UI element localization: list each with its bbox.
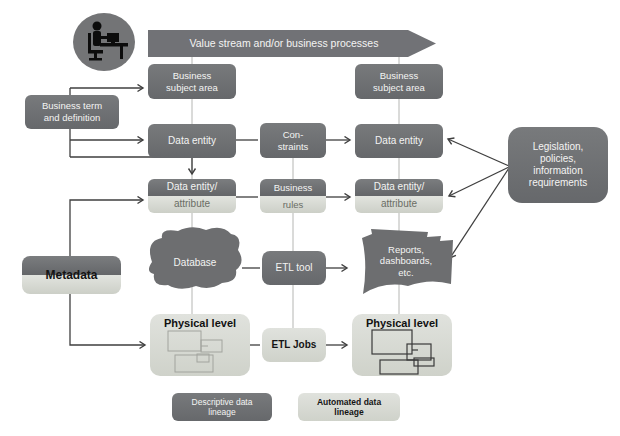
right-data-entity-attribute-top-label: Data entity/ (374, 181, 425, 193)
right-physical-level-node: Physical level (352, 314, 452, 376)
legend-automated-data-lineage: Automated data lineage (298, 393, 400, 421)
legislation-node: Legislation, policies, information requi… (508, 127, 608, 203)
left-physical-level-node: Physical level (150, 314, 250, 376)
connector-layer (0, 0, 620, 436)
business-term-node: Business term and definition (25, 95, 119, 129)
legislation-label: Legislation, policies, information requi… (529, 141, 587, 190)
business-rules-bottom: rules (260, 196, 326, 213)
metadata-bottom-half (22, 275, 121, 294)
left-business-subject-area-node: Business subject area (148, 64, 236, 99)
business-rules-top: Business (260, 179, 326, 196)
right-business-subject-area-label: Business subject area (373, 70, 425, 93)
left-data-entity-attribute-top: Data entity/ (148, 179, 236, 196)
constraints-node: Con- straints (260, 123, 326, 158)
right-data-entity-attribute-top: Data entity/ (355, 179, 443, 196)
metadata-top-half (22, 256, 121, 275)
right-data-entity-attribute-bottom-label: attribute (381, 198, 417, 210)
left-data-entity-attribute-top-label: Data entity/ (167, 181, 218, 193)
right-physical-level-label: Physical level (352, 317, 452, 330)
constraints-label: Con- straints (278, 129, 309, 152)
etl-tool-node: ETL tool (262, 251, 326, 285)
data-lineage-diagram: Value stream and/or business processes B… (0, 0, 620, 436)
left-physical-level-label: Physical level (150, 317, 250, 330)
right-data-entity-node: Data entity (355, 124, 443, 158)
legend-descriptive-label: Descriptive data lineage (192, 397, 253, 418)
legend-automated-label: Automated data lineage (317, 397, 381, 418)
left-data-entity-attribute-bottom-label: attribute (174, 198, 210, 210)
business-term-label: Business term and definition (42, 100, 102, 123)
left-data-entity-attribute-node: Data entity/ attribute (148, 179, 236, 213)
etl-jobs-node: ETL Jobs (262, 328, 326, 362)
business-rules-node: Business rules (260, 179, 326, 213)
reports-shape (362, 229, 453, 294)
person-at-desk-icon (73, 13, 135, 71)
left-data-entity-node: Data entity (148, 124, 236, 158)
value-stream-banner-shape (148, 30, 436, 57)
database-shape (149, 227, 242, 289)
business-rules-top-label: Business (274, 182, 313, 194)
left-data-entity-label: Data entity (168, 135, 216, 147)
left-data-entity-attribute-bottom: attribute (148, 196, 236, 213)
etl-jobs-label: ETL Jobs (272, 339, 317, 351)
right-data-entity-label: Data entity (375, 135, 423, 147)
right-data-entity-attribute-node: Data entity/ attribute (355, 179, 443, 213)
right-data-entity-attribute-bottom: attribute (355, 196, 443, 213)
legend-descriptive-data-lineage: Descriptive data lineage (172, 393, 272, 421)
left-business-subject-area-label: Business subject area (166, 70, 218, 93)
right-business-subject-area-node: Business subject area (355, 64, 443, 99)
metadata-node: Metadata (22, 256, 121, 294)
etl-tool-label: ETL tool (276, 262, 313, 274)
business-rules-bottom-label: rules (283, 199, 304, 211)
